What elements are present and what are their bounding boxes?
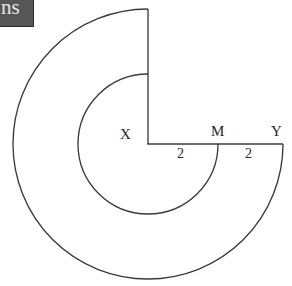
point-label-m: M (211, 124, 224, 139)
figure-canvas: X M Y 2 2 ns (0, 0, 292, 286)
watermark-badge: ns (0, 0, 34, 27)
dimension-label-my: 2 (245, 147, 252, 161)
geometry-figure (0, 0, 292, 286)
point-label-x: X (120, 127, 131, 142)
point-label-y: Y (271, 124, 282, 139)
watermark-text: ns (1, 0, 20, 18)
dimension-label-xm: 2 (177, 147, 184, 161)
